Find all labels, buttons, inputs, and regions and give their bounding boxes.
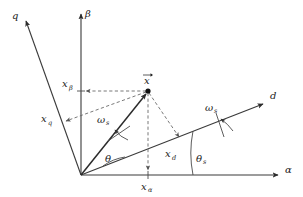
axis-beta-group: β (81, 8, 91, 175)
omega-s-vector-subscript: s (106, 119, 110, 127)
label-theta-s: θ s (196, 153, 207, 166)
x-vector-tip-dot (145, 88, 150, 93)
omega-s-daxis-base: ω (205, 102, 213, 113)
label-theta: θ (105, 153, 111, 164)
label-omega-s-vector: ω s (97, 114, 110, 127)
x-beta-base: x (62, 78, 68, 89)
projection-line-q (66, 92, 146, 121)
label-omega-s-daxis: ω s (205, 102, 218, 115)
alpha-axis-label: α (285, 164, 292, 175)
label-x-alpha: x α (141, 181, 153, 194)
d-axis-line (81, 104, 263, 175)
label-x-q: x q (41, 113, 52, 127)
projection-line-d (149, 93, 179, 137)
label-x-d: x d (165, 148, 176, 162)
x-vector-label: x (144, 75, 150, 86)
x-vector-accent-arrowhead (151, 73, 154, 77)
x-q-subscript: q (48, 119, 52, 127)
x-beta-subscript: β (68, 84, 73, 92)
axis-alpha-group: α (81, 164, 292, 175)
omega-s-daxis-crossbar (216, 113, 224, 137)
omega-s-daxis-subscript: s (214, 107, 218, 115)
x-vector-label-group: x (143, 73, 153, 86)
x-d-base: x (165, 148, 171, 159)
label-x-beta: x β (62, 78, 73, 92)
theta-label: θ (105, 153, 111, 164)
q-axis-line (26, 21, 81, 175)
omega-s-vector-base: ω (97, 114, 105, 125)
theta-s-subscript: s (203, 158, 207, 166)
x-alpha-base: x (141, 181, 147, 192)
d-axis-label: d (270, 90, 276, 101)
x-alpha-subscript: α (148, 186, 153, 194)
theta-s-label: θ (196, 153, 202, 164)
beta-axis-label: β (84, 8, 91, 19)
q-axis-label: q (12, 10, 18, 21)
omega-s-daxis-curved-arrow (221, 119, 233, 131)
x-q-base: x (41, 113, 47, 124)
theta-s-arc (191, 131, 193, 175)
axis-q-group: q (12, 10, 81, 175)
diagram-canvas: α β d q x (0, 0, 303, 197)
x-d-subscript: d (172, 154, 176, 162)
vector-diagram-figure: α β d q x (0, 0, 303, 197)
